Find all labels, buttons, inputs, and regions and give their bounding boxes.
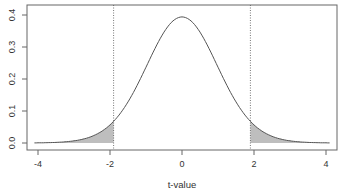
left-tail-shade — [34, 121, 113, 143]
plot-box — [27, 5, 337, 150]
y-tick-label: 0.1 — [7, 105, 17, 118]
y-tick-label: 0.4 — [7, 9, 17, 22]
x-axis-title: t-value — [168, 179, 197, 190]
x-tick-label: 2 — [251, 159, 256, 169]
y-tick-label: 0.0 — [7, 137, 17, 150]
critical-value-lines — [114, 5, 251, 150]
x-tick-label: 4 — [323, 159, 328, 169]
x-tick-label: 0 — [179, 159, 184, 169]
x-tick-label: -2 — [106, 159, 114, 169]
density-curve — [34, 17, 329, 143]
y-axis: 0.00.10.20.30.4 — [7, 9, 27, 150]
y-tick-label: 0.3 — [7, 41, 17, 54]
x-axis: -4-2024 — [34, 150, 329, 169]
t-distribution-chart: 0.00.10.20.30.4 -4-2024 t-value — [0, 0, 345, 195]
y-tick-label: 0.2 — [7, 73, 17, 86]
x-tick-label: -4 — [34, 159, 42, 169]
right-tail-shade — [250, 121, 329, 143]
